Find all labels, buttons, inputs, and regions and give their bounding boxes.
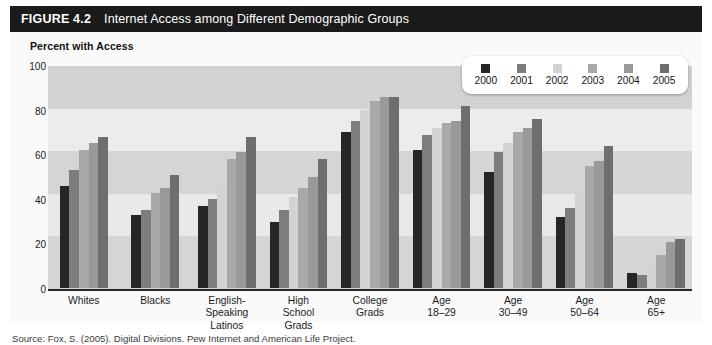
bar [380, 97, 390, 289]
x-axis-category-label: High School Grads [283, 295, 314, 332]
bar [575, 193, 585, 289]
bar [585, 166, 595, 289]
legend-swatch-icon [588, 64, 597, 73]
bar [432, 128, 442, 289]
legend-swatch-icon [517, 64, 526, 73]
bar [656, 255, 666, 288]
bar [308, 177, 318, 289]
bar [370, 101, 380, 288]
bar [484, 172, 494, 288]
legend-label: 2002 [546, 75, 569, 86]
bar [461, 106, 471, 289]
legend-label: 2003 [581, 75, 604, 86]
y-axis-tick-label: 60 [20, 150, 46, 161]
y-axis-tick-label: 100 [20, 61, 46, 72]
figure-title-bar: FIGURE 4.2 Internet Access among Differe… [10, 6, 702, 32]
bar [494, 152, 504, 288]
legend-item: 2001 [510, 64, 533, 86]
bar [246, 137, 256, 289]
bar [227, 159, 237, 288]
bar-stack [60, 67, 108, 288]
bar-group: Age 65+ [620, 67, 692, 288]
bar [270, 222, 280, 289]
bar [513, 132, 523, 288]
bar-stack [413, 67, 471, 288]
bar [666, 242, 676, 289]
x-axis-category-label: English- Speaking Latinos [205, 295, 248, 332]
bar [556, 217, 566, 288]
bar [637, 275, 647, 288]
bar [675, 239, 685, 288]
x-axis-category-label: Age 65+ [647, 295, 665, 320]
legend-swatch-icon [660, 64, 669, 73]
chart-legend: 200020012002200320042005 [462, 56, 688, 94]
x-axis-category-label: Blacks [140, 295, 170, 307]
legend-label: 2000 [474, 75, 497, 86]
bar-group: High School Grads [263, 67, 335, 288]
figure-number: FIGURE 4.2 [21, 12, 91, 26]
bar [647, 262, 657, 289]
x-axis-category-label: Whites [68, 295, 99, 307]
bar [151, 193, 161, 289]
bar [279, 210, 289, 288]
bar [98, 137, 108, 289]
bar [141, 210, 151, 288]
bar [208, 199, 218, 288]
bar [198, 206, 208, 289]
legend-item: 2000 [474, 64, 497, 86]
bar [451, 121, 461, 288]
bar-group: College Grads [334, 67, 406, 288]
bar [289, 197, 299, 288]
plot-area: 020406080100 WhitesBlacksEnglish- Speaki… [48, 66, 692, 290]
x-axis-category-label: Age 30–49 [499, 295, 528, 320]
bar [217, 184, 227, 289]
bar [442, 123, 452, 288]
bar [594, 161, 604, 288]
figure-title: Internet Access among Different Demograp… [104, 12, 409, 26]
bar [341, 132, 351, 288]
bar-stack [270, 67, 328, 288]
legend-swatch-icon [481, 64, 490, 73]
y-axis-tick-label: 0 [20, 284, 46, 295]
bar [523, 128, 533, 289]
y-axis-tick-label: 80 [20, 105, 46, 116]
bar [160, 188, 170, 288]
bar [131, 215, 141, 289]
y-axis-tick-label: 20 [20, 239, 46, 250]
bar-group: Age 30–49 [477, 67, 549, 288]
legend-swatch-icon [553, 64, 562, 73]
bar [604, 146, 614, 289]
figure-source: Source: Fox, S. (2005). Digital Division… [12, 333, 702, 344]
bar [89, 143, 99, 288]
bar [389, 97, 399, 289]
bar [170, 175, 180, 289]
bar-group: Age 50–64 [549, 67, 621, 288]
bar [79, 150, 89, 288]
bar-stack [484, 67, 542, 288]
bar [351, 121, 361, 288]
bar [318, 159, 328, 288]
legend-item: 2002 [546, 64, 569, 86]
bar [503, 143, 513, 288]
bar-stack [198, 67, 256, 288]
bar-stack [627, 67, 685, 288]
bar [236, 152, 246, 288]
bar-group: English- Speaking Latinos [191, 67, 263, 288]
bar-stack [341, 67, 399, 288]
bar [565, 208, 575, 288]
bar [360, 110, 370, 288]
y-axis-caption: Percent with Access [30, 40, 134, 52]
legend-item: 2005 [653, 64, 676, 86]
legend-item: 2003 [581, 64, 604, 86]
bar-stack [131, 67, 179, 288]
bar-group: Age 18–29 [406, 67, 478, 288]
legend-label: 2001 [510, 75, 533, 86]
x-axis-category-label: Age 50–64 [570, 295, 599, 320]
x-axis-category-label: Age 18–29 [427, 295, 456, 320]
legend-swatch-icon [624, 64, 633, 73]
bar [60, 186, 70, 289]
x-axis-line [48, 289, 692, 291]
bar-group: Blacks [120, 67, 192, 288]
bar-group: Whites [48, 67, 120, 288]
bar-stack [556, 67, 614, 288]
